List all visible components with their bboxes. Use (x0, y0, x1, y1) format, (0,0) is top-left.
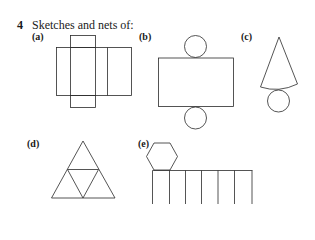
cylinder-net-figure (159, 36, 234, 130)
cuboid-net-figure (57, 36, 132, 108)
hexagonal-prism-net-figure (147, 143, 253, 204)
tetrahedron-net-figure (52, 141, 116, 198)
cone-net-figure (261, 37, 298, 112)
